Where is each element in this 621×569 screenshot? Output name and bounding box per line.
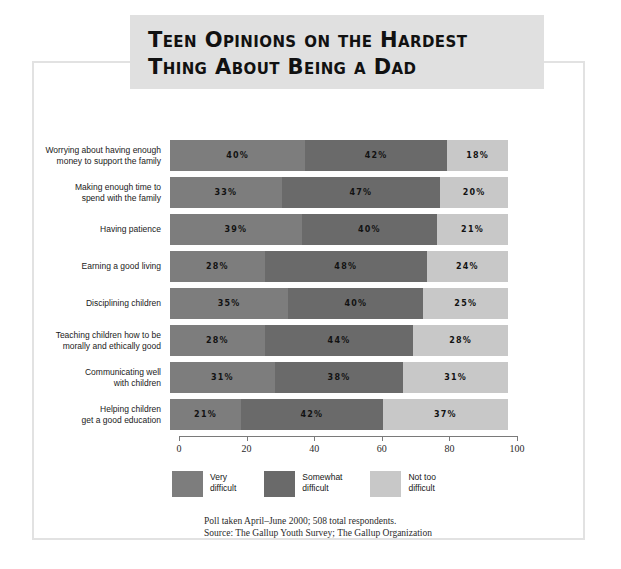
legend-label: Verydifficult xyxy=(210,471,236,494)
bar-row-label: Worrying about having enoughmoney to sup… xyxy=(32,145,170,167)
bar-row: Teaching children how to bemorally and e… xyxy=(32,325,585,356)
bar-track: 39%40%21% xyxy=(170,214,508,245)
bar-row: Helping childrenget a good education21%4… xyxy=(32,399,585,430)
bar-row-label: Earning a good living xyxy=(32,261,170,272)
bar-segment-not-too-difficult: 21% xyxy=(437,214,508,245)
x-axis-tick xyxy=(449,436,450,441)
legend-label: Somewhatdifficult xyxy=(302,471,342,494)
legend-swatch xyxy=(264,471,295,497)
x-axis-tick xyxy=(247,436,248,441)
bar-segment-not-too-difficult: 28% xyxy=(413,325,508,356)
bar-segment-somewhat-difficult: 38% xyxy=(275,362,403,393)
x-axis-line xyxy=(179,436,517,437)
x-axis-tick-label: 20 xyxy=(242,443,252,454)
bar-track: 28%44%28% xyxy=(170,325,508,356)
bar-row: Earning a good living28%48%24% xyxy=(32,251,585,282)
bar-row: Having patience39%40%21% xyxy=(32,214,585,245)
legend-swatch xyxy=(172,471,203,497)
bar-rows: Worrying about having enoughmoney to sup… xyxy=(32,140,585,436)
bar-track: 40%42%18% xyxy=(170,140,508,171)
bar-segment-somewhat-difficult: 47% xyxy=(282,177,441,208)
bar-row-label: Having patience xyxy=(32,224,170,235)
bar-row-label: Disciplining children xyxy=(32,298,170,309)
legend-label: Not toodifficult xyxy=(408,471,435,494)
bar-row: Making enough time tospend with the fami… xyxy=(32,177,585,208)
bar-segment-somewhat-difficult: 42% xyxy=(241,399,383,430)
bar-segment-somewhat-difficult: 42% xyxy=(305,140,447,171)
footer-source-note: Source: The Gallup Youth Survey; The Gal… xyxy=(204,527,432,539)
bar-segment-very-difficult: 28% xyxy=(170,251,265,282)
x-axis-tick-label: 100 xyxy=(510,443,525,454)
bar-row: Communicating wellwith children31%38%31% xyxy=(32,362,585,393)
bar-track: 31%38%31% xyxy=(170,362,508,393)
bar-segment-somewhat-difficult: 44% xyxy=(265,325,414,356)
legend-item-very-difficult[interactable]: Verydifficult xyxy=(172,471,236,497)
chart-legend: VerydifficultSomewhatdifficultNot toodif… xyxy=(172,471,436,497)
footer-poll-note: Poll taken April–June 2000; 508 total re… xyxy=(204,515,432,527)
legend-swatch xyxy=(370,471,401,497)
bar-track: 33%47%20% xyxy=(170,177,508,208)
bar-segment-very-difficult: 35% xyxy=(170,288,288,319)
x-axis-tick xyxy=(517,436,518,441)
bar-segment-somewhat-difficult: 40% xyxy=(288,288,423,319)
page-title-line1: Teen Opinions on the Hardest xyxy=(148,27,544,54)
bar-segment-not-too-difficult: 18% xyxy=(447,140,508,171)
bar-segment-very-difficult: 39% xyxy=(170,214,302,245)
legend-item-somewhat-difficult[interactable]: Somewhatdifficult xyxy=(264,471,342,497)
page-title-line2: Thing About Being a Dad xyxy=(148,54,544,81)
x-axis-tick-label: 40 xyxy=(309,443,319,454)
bar-row: Disciplining children35%40%25% xyxy=(32,288,585,319)
bar-track: 28%48%24% xyxy=(170,251,508,282)
bar-segment-very-difficult: 28% xyxy=(170,325,265,356)
bar-row-label: Making enough time tospend with the fami… xyxy=(32,182,170,204)
bar-segment-not-too-difficult: 25% xyxy=(423,288,508,319)
x-axis-tick xyxy=(314,436,315,441)
bar-row: Worrying about having enoughmoney to sup… xyxy=(32,140,585,171)
bar-segment-somewhat-difficult: 48% xyxy=(265,251,427,282)
x-axis-tick-label: 0 xyxy=(177,443,182,454)
stacked-bar-chart: Worrying about having enoughmoney to sup… xyxy=(32,100,585,540)
x-axis-tick xyxy=(179,436,180,441)
bar-segment-very-difficult: 40% xyxy=(170,140,305,171)
bar-track: 21%42%37% xyxy=(170,399,508,430)
bar-segment-not-too-difficult: 24% xyxy=(427,251,508,282)
x-axis-tick xyxy=(382,436,383,441)
bar-row-label: Teaching children how to bemorally and e… xyxy=(32,330,170,352)
bar-segment-not-too-difficult: 20% xyxy=(440,177,508,208)
bar-segment-very-difficult: 33% xyxy=(170,177,282,208)
bar-segment-somewhat-difficult: 40% xyxy=(302,214,437,245)
bar-segment-not-too-difficult: 31% xyxy=(403,362,508,393)
bar-segment-not-too-difficult: 37% xyxy=(383,399,508,430)
bar-row-label: Helping childrenget a good education xyxy=(32,404,170,426)
chart-footer: Poll taken April–June 2000; 508 total re… xyxy=(204,515,432,539)
bar-segment-very-difficult: 21% xyxy=(170,399,241,430)
x-axis-tick-label: 60 xyxy=(377,443,387,454)
bar-row-label: Communicating wellwith children xyxy=(32,367,170,389)
bar-track: 35%40%25% xyxy=(170,288,508,319)
x-axis-tick-label: 80 xyxy=(444,443,454,454)
title-banner: Teen Opinions on the Hardest Thing About… xyxy=(130,15,544,89)
legend-item-not-too-difficult[interactable]: Not toodifficult xyxy=(370,471,435,497)
x-axis: 020406080100 xyxy=(179,436,517,462)
bar-segment-very-difficult: 31% xyxy=(170,362,275,393)
